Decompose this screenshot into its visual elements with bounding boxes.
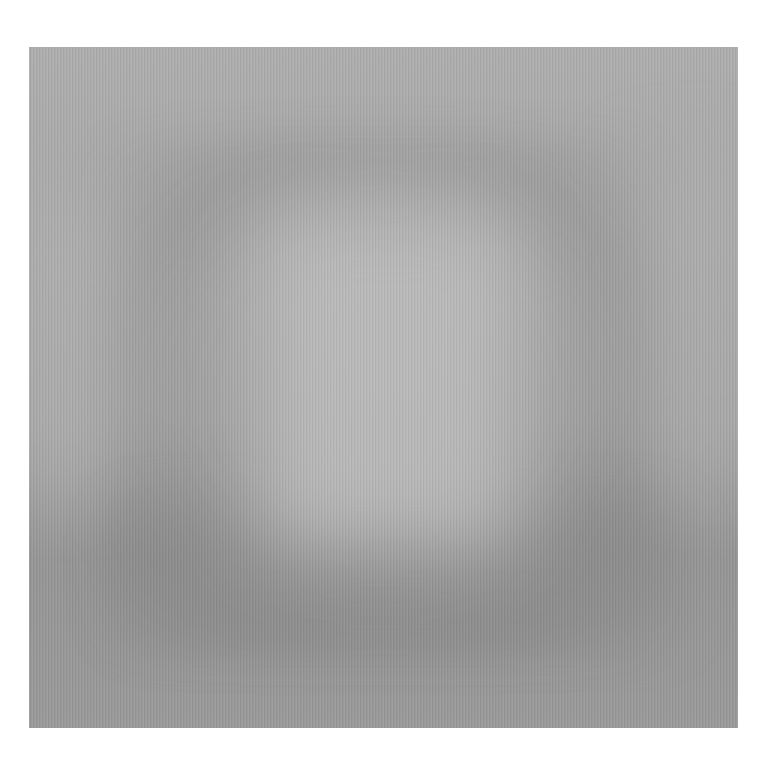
image-canvas: [0, 0, 784, 782]
paper-texture: [29, 47, 738, 728]
gray-textured-panel: [29, 47, 738, 728]
